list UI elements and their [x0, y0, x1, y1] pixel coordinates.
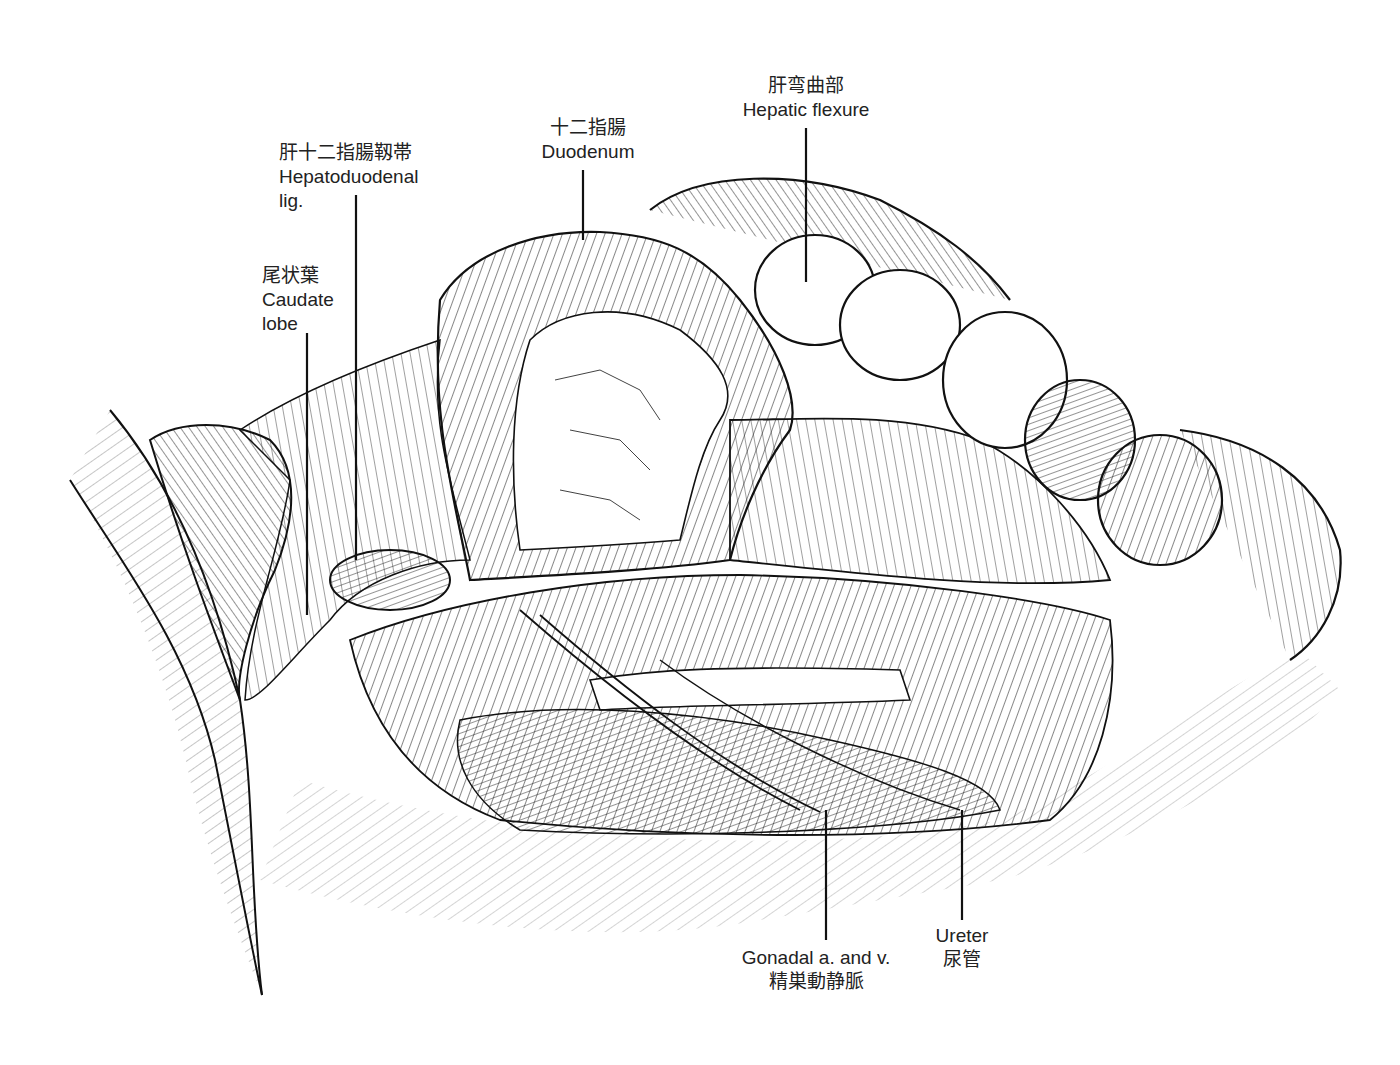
label-en-2: lobe — [262, 312, 334, 336]
label-jp: 尿管 — [922, 948, 1002, 972]
label-en: Duodenum — [528, 140, 648, 164]
label-en: Hepatoduodenal — [279, 165, 418, 189]
label-jp: 尾状葉 — [262, 264, 334, 288]
label-jp: 十二指腸 — [528, 116, 648, 140]
label-en: Caudate — [262, 288, 334, 312]
label-hepatic-flexure: 肝弯曲部 Hepatic flexure — [736, 74, 876, 122]
label-jp: 精巣動静脈 — [726, 970, 906, 994]
label-caudate-lobe: 尾状葉 Caudate lobe — [262, 264, 334, 336]
label-hepatoduodenal-lig: 肝十二指腸靱帯 Hepatoduodenal lig. — [279, 141, 418, 213]
label-en: Gonadal a. and v. — [726, 946, 906, 970]
label-en: Ureter — [922, 924, 1002, 948]
label-gonadal-vessels: Gonadal a. and v. 精巣動静脈 — [726, 946, 906, 994]
anatomical-drawing — [0, 0, 1400, 1065]
label-jp: 肝十二指腸靱帯 — [279, 141, 418, 165]
label-en-2: lig. — [279, 189, 418, 213]
label-duodenum: 十二指腸 Duodenum — [528, 116, 648, 164]
label-en: Hepatic flexure — [736, 98, 876, 122]
label-jp: 肝弯曲部 — [736, 74, 876, 98]
label-ureter: Ureter 尿管 — [922, 924, 1002, 972]
